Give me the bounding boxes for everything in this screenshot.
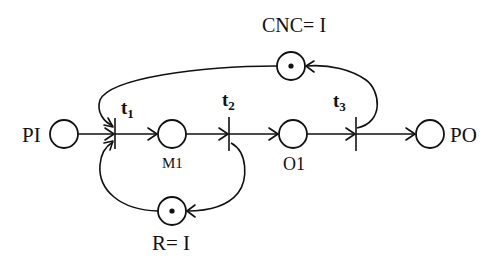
arc-m1-t2 <box>186 128 228 140</box>
arc-t2-r <box>187 143 245 217</box>
arc-t3-po <box>356 128 415 140</box>
label-po: PO <box>450 123 477 147</box>
arc-t3-cnc <box>306 61 377 128</box>
place-m1[interactable] <box>158 120 186 148</box>
place-o1[interactable] <box>279 120 307 148</box>
place-pi[interactable] <box>50 120 78 148</box>
label-m1: M1 <box>162 155 183 171</box>
arc-r-t1 <box>100 141 158 211</box>
arc-t1-m1 <box>115 128 157 140</box>
label-t1: t1 <box>121 97 134 121</box>
arc-t2-o1 <box>229 128 278 140</box>
arc-pi-t1 <box>78 128 114 140</box>
place-po[interactable] <box>416 120 444 148</box>
label-pi: PI <box>22 123 41 147</box>
arc-o1-t3 <box>307 128 355 140</box>
petri-net-diagram: PI M1 O1 PO CNC= I R= I t1 t2 t3 <box>0 0 493 264</box>
label-cnc: CNC= I <box>262 14 326 36</box>
token-cnc-icon <box>288 63 293 68</box>
label-t3: t3 <box>333 90 346 114</box>
label-t2: t2 <box>222 89 235 113</box>
token-r-icon <box>169 208 174 213</box>
label-o1: O1 <box>283 154 305 174</box>
label-r: R= I <box>152 231 190 255</box>
